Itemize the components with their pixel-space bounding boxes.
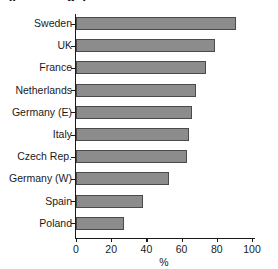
x-tick-label: 100 <box>237 243 267 255</box>
x-tick-mark <box>76 238 77 242</box>
category-label: Italy <box>0 128 72 141</box>
bar-spain <box>76 195 143 208</box>
bar-germany-e <box>76 106 192 119</box>
bar-fill <box>76 150 187 163</box>
x-axis-line <box>75 238 255 239</box>
x-tick-mark <box>252 238 253 242</box>
bar-fill <box>76 195 143 208</box>
category-label: Netherlands <box>0 84 72 97</box>
y-tick-mark <box>71 112 75 113</box>
category-label: France <box>0 61 72 74</box>
bar-fill <box>76 172 169 185</box>
y-tick-mark <box>71 68 75 69</box>
bar-fill <box>76 17 236 30</box>
x-axis-title: % <box>76 256 252 268</box>
y-tick-mark <box>71 157 75 158</box>
chart-title: (percentage) <box>8 0 270 1</box>
y-tick-mark <box>71 135 75 136</box>
bar-poland <box>76 217 124 230</box>
category-label: Germany (W) <box>0 172 72 185</box>
bar-fill <box>76 61 206 74</box>
bar-fill <box>76 39 215 52</box>
bar-france <box>76 61 206 74</box>
y-tick-mark <box>71 201 75 202</box>
x-tick-label: 0 <box>61 243 91 255</box>
category-label: Germany (E) <box>0 106 72 119</box>
x-tick-mark <box>146 238 147 242</box>
y-tick-mark <box>71 223 75 224</box>
x-tick-label: 80 <box>202 243 232 255</box>
bar-germany-w <box>76 172 169 185</box>
bar-italy <box>76 128 189 141</box>
bar-fill <box>76 217 124 230</box>
bar-fill <box>76 128 189 141</box>
x-tick-mark <box>217 238 218 242</box>
category-label: Spain <box>0 195 72 208</box>
y-tick-mark <box>71 24 75 25</box>
x-tick-label: 60 <box>167 243 197 255</box>
x-tick-mark <box>182 238 183 242</box>
category-label: Czech Rep. <box>0 150 72 163</box>
bar-czech-rep <box>76 150 187 163</box>
y-tick-mark <box>71 179 75 180</box>
category-label: UK <box>0 39 72 52</box>
category-label: Poland <box>0 217 72 230</box>
bar-sweden <box>76 17 236 30</box>
x-tick-label: 20 <box>96 243 126 255</box>
bar-netherlands <box>76 84 196 97</box>
bar-chart-figure: (percentage) SwedenUKFranceNetherlandsGe… <box>0 0 278 269</box>
x-tick-mark <box>111 238 112 242</box>
y-tick-mark <box>71 46 75 47</box>
category-label: Sweden <box>0 17 72 30</box>
x-tick-label: 40 <box>131 243 161 255</box>
y-tick-mark <box>71 90 75 91</box>
bar-uk <box>76 39 215 52</box>
bar-fill <box>76 106 192 119</box>
bar-fill <box>76 84 196 97</box>
